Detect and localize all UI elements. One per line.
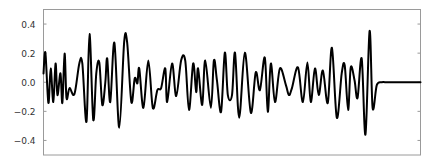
- y-tick-label: 0.2: [21, 49, 35, 59]
- y-tick-label: 0.0: [21, 78, 36, 88]
- y-tick-label: −0.2: [14, 107, 36, 117]
- y-tick-label: 0.4: [21, 20, 36, 30]
- y-tick-label: −0.4: [14, 136, 36, 146]
- line-chart: 0.40.20.0−0.2−0.4: [0, 0, 440, 165]
